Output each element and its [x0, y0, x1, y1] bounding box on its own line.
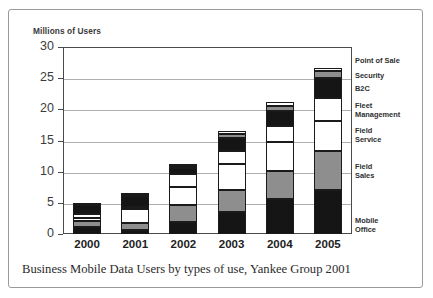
figure-container: Millions of Users 051015202530 200020012… [0, 0, 433, 298]
bar-segment [121, 196, 149, 207]
bar-segment [121, 209, 149, 223]
bar-segment [73, 218, 101, 221]
bar-segment [314, 71, 342, 77]
bar-stack [218, 131, 246, 234]
bar-segment [121, 207, 149, 209]
bar-segment [169, 164, 197, 166]
x-axis-label: 2001 [111, 238, 159, 250]
bar-segment [73, 221, 101, 227]
bar-segment [314, 190, 342, 234]
legend-item: B2C [355, 85, 370, 94]
bar-stack [314, 68, 342, 234]
bar-segment [218, 190, 246, 211]
figure-caption: Business Mobile Data Users by types of u… [22, 262, 351, 277]
bar-segment [169, 168, 197, 174]
y-axis-tick-mark [58, 234, 63, 235]
x-axis-label: 2002 [159, 238, 207, 250]
x-axis-label: 2000 [63, 238, 111, 250]
x-axis-label: 2003 [208, 238, 256, 250]
y-axis-tick-label: 30 [28, 39, 54, 53]
bar-segment [314, 121, 342, 151]
legend-item: Security [355, 72, 384, 81]
legend-item: Point of Sale [355, 57, 400, 66]
bar-segment [266, 199, 294, 234]
bar-segment [218, 138, 246, 151]
bar-segment [218, 151, 246, 163]
bar-segment [169, 205, 197, 221]
bar-segment [266, 126, 294, 142]
legend-item: Fleet Management [355, 102, 400, 119]
y-axis-title: Millions of Users [33, 26, 101, 36]
bar-segment [266, 142, 294, 171]
bar-stack [169, 165, 197, 234]
bar-segment [73, 205, 101, 214]
bar-segment [314, 68, 342, 71]
x-axis-label: 2005 [304, 238, 352, 250]
bar-segment [218, 134, 246, 138]
bar-segment [266, 171, 294, 199]
bar-segment [121, 193, 149, 195]
bar-stack [121, 193, 149, 234]
bar-segment [266, 102, 294, 106]
bar-segment [169, 166, 197, 168]
bar-segment [121, 230, 149, 234]
x-axis-label: 2004 [256, 238, 304, 250]
bar-stack [73, 204, 101, 234]
y-axis-tick-label: 10 [28, 164, 54, 178]
y-axis-tick-label: 25 [28, 70, 54, 84]
legend-item: Mobile Office [355, 217, 378, 234]
bar-segment [266, 106, 294, 111]
bar-segment [266, 111, 294, 127]
bar-segment [169, 174, 197, 188]
legend-item: Field Sales [355, 163, 374, 180]
bar-segment [218, 164, 246, 191]
y-axis-tick-label: 5 [28, 195, 54, 209]
bar-stack [266, 102, 294, 234]
y-axis-tick-label: 15 [28, 133, 54, 147]
bar-segment [314, 151, 342, 190]
bar-group [63, 47, 352, 234]
x-axis-labels: 200020012002200320042005 [63, 238, 352, 256]
bar-segment [73, 227, 101, 234]
bar-segment [169, 187, 197, 205]
bar-segment [73, 214, 101, 218]
y-axis-tick-label: 20 [28, 101, 54, 115]
bar-segment [169, 222, 197, 234]
y-axis-tick-label: 0 [28, 226, 54, 240]
legend-item: Field Service [355, 127, 381, 144]
bar-segment [121, 223, 149, 230]
bar-segment [314, 78, 342, 98]
bar-segment [218, 212, 246, 234]
legend: Point of SaleSecurityB2CFleet Management… [352, 47, 424, 237]
bar-segment [314, 98, 342, 122]
bar-segment [73, 203, 101, 205]
bar-segment [218, 131, 246, 134]
